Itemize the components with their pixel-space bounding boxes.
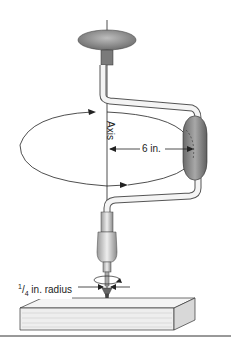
- wood-front: [20, 308, 174, 330]
- bit-radius-label: 1/4 in. radius: [18, 281, 72, 299]
- brace-drill-diagram: Axis 6 in. 1/4 in. radius: [0, 0, 231, 342]
- axis-label: Axis: [105, 121, 116, 140]
- wood-top: [20, 298, 195, 308]
- crank-radius-label: 6 in.: [142, 143, 161, 154]
- head-knob: [78, 30, 136, 50]
- crank-handle: [183, 116, 207, 180]
